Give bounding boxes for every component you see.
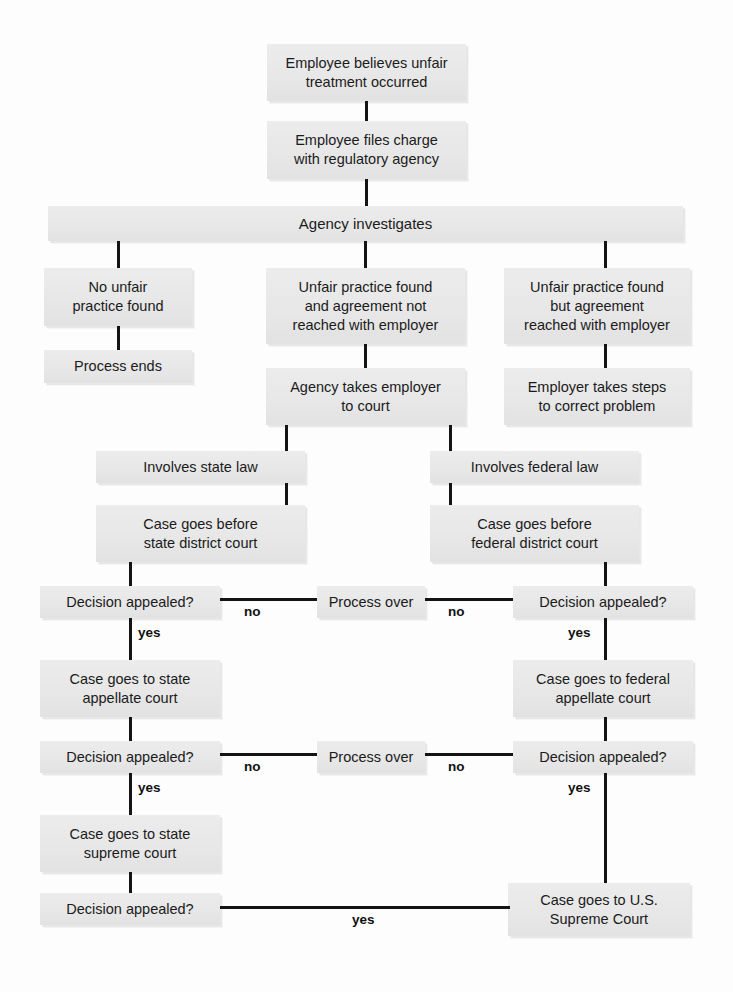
node-case-state-appellate-court: Case goes to stateappellate court <box>40 660 220 717</box>
node-decision-appealed-federal-1: Decision appealed? <box>513 586 693 618</box>
node-case-state-supreme-court: Case goes to statesupreme court <box>40 815 220 872</box>
node-label: Decision appealed? <box>66 593 193 612</box>
node-label: Decision appealed? <box>539 748 666 767</box>
connector-bar-to-left <box>117 241 120 268</box>
node-case-state-district-court: Case goes beforestate district court <box>96 505 305 562</box>
edge-label-no-left-2: no <box>244 759 261 774</box>
connector-yes-left-2 <box>129 773 132 815</box>
node-case-us-supreme-court: Case goes to U.S.Supreme Court <box>508 883 690 936</box>
connector-yes-right-2 <box>604 773 607 883</box>
connector-yes-left-1 <box>129 618 132 660</box>
connector-n8-to-federal-law <box>449 425 452 451</box>
node-label: Unfair practice foundand agreement notre… <box>293 278 439 335</box>
node-label: Process over <box>329 593 414 612</box>
node-label: Case goes beforefederal district court <box>471 515 598 553</box>
node-label: Case goes to statesupreme court <box>70 825 191 863</box>
edge-label-yes-right-1: yes <box>568 625 591 640</box>
connector-yes-bottom-to-us-supreme <box>220 906 510 909</box>
node-decision-appealed-state-2: Decision appealed? <box>40 741 220 773</box>
node-process-over-1: Process over <box>317 586 425 618</box>
connector-federal-appellate-to-decision <box>604 717 607 741</box>
connector-n1-to-n2 <box>365 101 368 121</box>
connector-n2-to-n3 <box>365 179 368 206</box>
connector-state-appellate-to-decision <box>129 717 132 741</box>
connector-n4-to-n7 <box>117 326 120 350</box>
edge-label-no-right-2: no <box>448 759 465 774</box>
connector-no-right-2 <box>425 753 513 756</box>
edge-label-yes-bottom: yes <box>352 912 375 927</box>
edge-label-yes-right-2: yes <box>568 780 591 795</box>
connector-no-right-1 <box>425 598 513 601</box>
connector-federal-law-to-district <box>449 483 452 505</box>
flowchart-canvas: Employee believes unfairtreatment occurr… <box>0 0 733 992</box>
node-label: Case goes beforestate district court <box>143 515 257 553</box>
node-label: Employee believes unfairtreatment occurr… <box>285 54 447 92</box>
edge-label-yes-left-2: yes <box>138 780 161 795</box>
node-label: Decision appealed? <box>66 900 193 919</box>
connector-state-district-to-decision <box>129 562 132 586</box>
node-label: Employer takes stepsto correct problem <box>528 378 667 416</box>
node-agency-takes-employer-to-court: Agency takes employerto court <box>266 368 465 425</box>
node-label: Process ends <box>74 357 162 376</box>
node-label: No unfairpractice found <box>72 278 163 316</box>
node-label: Unfair practice foundbut agreementreache… <box>524 278 670 335</box>
node-case-federal-district-court: Case goes beforefederal district court <box>430 505 639 562</box>
connector-n5-to-n8 <box>364 344 367 368</box>
node-unfair-practice-agreement-reached: Unfair practice foundbut agreementreache… <box>504 268 690 344</box>
page-bleed-text-3 <box>65 952 605 972</box>
edge-label-no-right-1: no <box>448 604 465 619</box>
node-decision-appealed-federal-2: Decision appealed? <box>513 741 693 773</box>
node-label: Decision appealed? <box>66 748 193 767</box>
node-label: Involves state law <box>143 458 257 477</box>
node-employer-takes-steps: Employer takes stepsto correct problem <box>504 368 690 425</box>
node-unfair-practice-no-agreement: Unfair practice foundand agreement notre… <box>266 268 465 344</box>
connector-bar-to-middle <box>364 241 367 268</box>
node-label: Process over <box>329 748 414 767</box>
node-case-federal-appellate-court: Case goes to federalappellate court <box>513 660 693 717</box>
node-decision-appealed-state-1: Decision appealed? <box>40 586 220 618</box>
connector-no-left-2 <box>220 753 317 756</box>
connector-n6-to-n9 <box>604 344 607 368</box>
node-process-over-2: Process over <box>317 741 425 773</box>
node-process-ends: Process ends <box>44 350 192 383</box>
node-label: Agency investigates <box>299 214 432 233</box>
node-involves-state-law: Involves state law <box>96 451 305 483</box>
connector-n8-to-state-law <box>285 425 288 451</box>
node-agency-investigates: Agency investigates <box>48 206 683 241</box>
edge-label-no-left-1: no <box>244 604 261 619</box>
node-label: Case goes to stateappellate court <box>70 670 191 708</box>
node-no-unfair-practice-found: No unfairpractice found <box>44 268 192 326</box>
node-label: Agency takes employerto court <box>290 378 441 416</box>
connector-federal-district-to-decision <box>604 562 607 586</box>
node-employee-believes-unfair-treatment: Employee believes unfairtreatment occurr… <box>267 44 466 101</box>
node-label: Employee files chargewith regulatory age… <box>294 131 439 169</box>
node-employee-files-charge: Employee files chargewith regulatory age… <box>267 121 466 179</box>
node-involves-federal-law: Involves federal law <box>430 451 639 483</box>
node-label: Case goes to federalappellate court <box>536 670 670 708</box>
connector-yes-right-1 <box>604 618 607 660</box>
node-label: Case goes to U.S.Supreme Court <box>540 891 658 929</box>
node-decision-appealed-state-3: Decision appealed? <box>40 893 220 925</box>
connector-state-law-to-district <box>285 483 288 505</box>
connector-no-left-1 <box>220 598 317 601</box>
connector-state-supreme-to-decision <box>129 872 132 893</box>
connector-bar-to-right <box>604 241 607 268</box>
edge-label-yes-left-1: yes <box>138 625 161 640</box>
node-label: Involves federal law <box>471 458 598 477</box>
node-label: Decision appealed? <box>539 593 666 612</box>
